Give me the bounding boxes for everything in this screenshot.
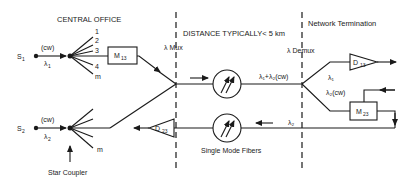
svg-text:m: m	[95, 73, 101, 80]
combined-wavelength-label: λ₁+λ₂(cw)	[259, 73, 288, 81]
star-coupler-1: 1 2 3 4 m	[68, 28, 109, 80]
svg-text:13: 13	[360, 62, 366, 68]
distance-heading: DISTANCE TYPICALLY< 5 km	[183, 29, 285, 38]
source-s1: S 1 (cw) λ 1	[17, 44, 66, 69]
detector-d23: D 23	[149, 119, 174, 137]
svg-text:(cw): (cw)	[41, 44, 54, 52]
branch-bottom-label: λ₂(cw)	[326, 89, 345, 97]
svg-text:(cw): (cw)	[41, 116, 54, 124]
wdm-network-diagram: CENTRAL OFFICE DISTANCE TYPICALLY< 5 km …	[0, 0, 414, 184]
svg-text:1: 1	[95, 28, 99, 35]
svg-text:23: 23	[363, 111, 369, 117]
svg-text:3: 3	[95, 47, 99, 54]
return-wavelength-label: λ₂	[288, 119, 295, 126]
demux-label: λ Demux	[287, 47, 315, 54]
network-termination-heading: Network Termination	[308, 19, 376, 28]
svg-text:13: 13	[121, 55, 127, 61]
svg-text:D: D	[353, 59, 358, 66]
svg-text:1: 1	[22, 56, 25, 62]
detector-d13: D 13	[350, 54, 377, 70]
svg-text:2: 2	[95, 37, 99, 44]
branch-top-label: λ₁	[328, 74, 335, 81]
svg-text:2: 2	[22, 128, 25, 134]
fiber-bottom	[213, 114, 241, 142]
single-mode-fibers-label: Single Mode Fibers	[201, 147, 262, 155]
svg-text:m: m	[97, 146, 103, 153]
svg-text:1: 1	[48, 63, 51, 69]
modulator-m13: M 13	[108, 47, 137, 64]
modulator-m23: M 23	[350, 102, 377, 120]
star-coupler-2: m	[68, 109, 111, 153]
svg-text:4: 4	[95, 63, 99, 70]
svg-text:D: D	[155, 125, 160, 132]
svg-text:M: M	[356, 108, 362, 115]
svg-text:23: 23	[162, 128, 168, 134]
svg-text:M: M	[114, 52, 120, 59]
mux-label: λ Mux	[164, 44, 183, 51]
svg-text:2: 2	[48, 136, 51, 142]
fiber-top	[213, 70, 241, 98]
central-office-heading: CENTRAL OFFICE	[57, 15, 121, 24]
star-coupler-label: Star Coupler	[48, 169, 88, 177]
source-s2: S 2 (cw) λ 2	[17, 116, 66, 142]
